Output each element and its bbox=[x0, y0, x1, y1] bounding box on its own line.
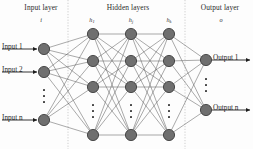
hidden-layer-1-symbol: h1 bbox=[83, 16, 101, 24]
hidden-layer-3-node-2 bbox=[163, 55, 174, 66]
hidden-layer-2-node-3 bbox=[125, 81, 136, 92]
edge bbox=[48, 37, 88, 68]
input-label-n: Input n bbox=[2, 114, 23, 122]
hidden-layer-3-node-1 bbox=[163, 28, 174, 39]
hidden-layer-2-symbol: hj bbox=[122, 16, 140, 24]
edge bbox=[48, 65, 90, 115]
hidden-layer-2-node-1 bbox=[125, 28, 136, 39]
output-layer-ellipsis bbox=[203, 78, 209, 92]
edge bbox=[49, 74, 87, 86]
input-label-1: Input 1 bbox=[2, 43, 23, 51]
edge bbox=[171, 65, 203, 130]
edge bbox=[47, 54, 90, 130]
edge bbox=[175, 60, 201, 61]
hidden-layer-3-ellipsis bbox=[166, 104, 172, 118]
output-label-n: Output n bbox=[213, 104, 238, 112]
output-layer-symbol-base: o bbox=[219, 16, 222, 23]
output-layer-node-2 bbox=[200, 104, 211, 115]
hidden-layer-3-node-3 bbox=[163, 81, 174, 92]
hidden-layer-3-symbol-subscript: k bbox=[170, 19, 172, 24]
input-label-2: Input 2 bbox=[2, 66, 23, 74]
hidden-layer-2-node-4 bbox=[125, 129, 136, 140]
edge bbox=[48, 52, 88, 83]
hidden-layer-2-node-2 bbox=[125, 55, 136, 66]
output-layer-node-1 bbox=[200, 54, 211, 65]
hidden-layer-3-symbol: hk bbox=[160, 16, 178, 24]
neural-network-diagram: Input layerHidden layersOutput layer ih1… bbox=[0, 0, 253, 149]
edge bbox=[49, 122, 87, 134]
hidden-layer-1-node-4 bbox=[87, 129, 98, 140]
edge bbox=[174, 63, 202, 83]
input-layer-node-2 bbox=[38, 66, 49, 77]
hidden-layer-3-node-4 bbox=[163, 129, 174, 140]
connection-edges bbox=[47, 34, 204, 135]
hidden-layer-1-node-3 bbox=[87, 81, 98, 92]
input-layer-symbol-base: i bbox=[40, 16, 42, 23]
hidden-layer-1-node-1 bbox=[87, 28, 98, 39]
edge bbox=[174, 37, 202, 57]
hidden-layer-1-symbol-subscript: 1 bbox=[92, 19, 94, 24]
hidden-layer-1-ellipsis bbox=[90, 104, 96, 118]
hidden-layers-header: Hidden layers bbox=[90, 3, 166, 12]
output-layer-header: Output layer bbox=[191, 3, 249, 12]
edge bbox=[49, 36, 87, 48]
input-layer-header: Input layer bbox=[13, 3, 69, 12]
output-layer-symbol: o bbox=[211, 16, 231, 23]
edge bbox=[49, 50, 87, 59]
input-layer-ellipsis bbox=[41, 89, 47, 103]
edge bbox=[49, 90, 89, 117]
edge bbox=[171, 39, 203, 105]
output-label-1: Output 1 bbox=[213, 54, 238, 62]
hidden-layer-2-symbol-subscript: j bbox=[132, 19, 133, 24]
hidden-layer-1-node-2 bbox=[87, 55, 98, 66]
edge bbox=[174, 113, 202, 132]
input-layer-node-1 bbox=[38, 43, 49, 54]
input-layer-symbol: i bbox=[31, 16, 51, 23]
input-layer-node-3 bbox=[38, 114, 49, 125]
hidden-layer-2-ellipsis bbox=[128, 104, 134, 118]
